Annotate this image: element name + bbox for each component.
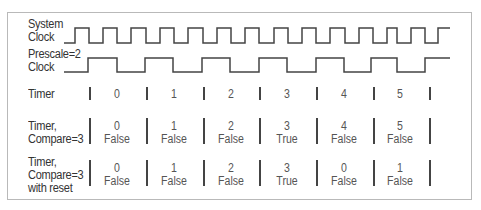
- compare-flag: False: [95, 175, 139, 188]
- tick-divider: [89, 118, 91, 144]
- compare-cell: 4False: [322, 120, 366, 146]
- tick-divider: [373, 118, 375, 144]
- tick-divider: [429, 118, 431, 144]
- timer-value: 4: [322, 88, 366, 101]
- tick-divider: [146, 118, 148, 144]
- tick-divider: [316, 160, 318, 186]
- tick-divider: [429, 87, 431, 100]
- timer-value: 0: [95, 88, 139, 101]
- compare-flag: False: [322, 175, 366, 188]
- compare-cell: 2False: [209, 120, 253, 146]
- tick-divider: [146, 160, 148, 186]
- compare-flag: False: [152, 133, 196, 146]
- tick-divider: [259, 160, 261, 186]
- compare-flag: False: [209, 133, 253, 146]
- compare-cell: 3True: [265, 120, 309, 146]
- compare-cell: 0False: [95, 120, 139, 146]
- system-clock-waveform: [64, 28, 450, 43]
- tick-divider: [316, 87, 318, 100]
- compare-flag: True: [265, 133, 309, 146]
- timer-value: 3: [265, 88, 309, 101]
- compare-flag: False: [152, 175, 196, 188]
- compare-cell: 3True: [265, 162, 309, 188]
- compare-flag: False: [95, 133, 139, 146]
- compare-flag: False: [322, 133, 366, 146]
- tick-divider: [146, 87, 148, 100]
- compare-cell: 1False: [152, 120, 196, 146]
- tick-divider: [373, 160, 375, 186]
- tick-divider: [259, 87, 261, 100]
- compare-cell: 2False: [209, 162, 253, 188]
- tick-divider: [203, 87, 205, 100]
- compare-cell: 1False: [152, 162, 196, 188]
- timer-value: 2: [209, 88, 253, 101]
- timer-value: 5: [378, 88, 422, 101]
- prescale-clock-waveform: [64, 58, 450, 72]
- tick-divider: [89, 87, 91, 100]
- tick-divider: [429, 160, 431, 186]
- tick-divider: [259, 118, 261, 144]
- tick-divider: [203, 160, 205, 186]
- tick-divider: [373, 87, 375, 100]
- compare-flag: False: [378, 175, 422, 188]
- timer-value: 1: [152, 88, 196, 101]
- compare-cell: 0False: [322, 162, 366, 188]
- tick-divider: [316, 118, 318, 144]
- compare-flag: False: [378, 133, 422, 146]
- compare-cell: 5False: [378, 120, 422, 146]
- compare-flag: True: [265, 175, 309, 188]
- tick-divider: [89, 160, 91, 186]
- compare-cell: 1False: [378, 162, 422, 188]
- compare-flag: False: [209, 175, 253, 188]
- tick-divider: [203, 118, 205, 144]
- compare-cell: 0False: [95, 162, 139, 188]
